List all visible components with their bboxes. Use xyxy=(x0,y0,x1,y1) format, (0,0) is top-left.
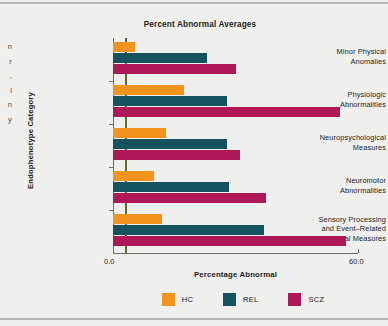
page-rule-top xyxy=(0,2,388,4)
legend-item-rel[interactable]: REL xyxy=(223,293,258,306)
page-rule-bottom xyxy=(0,318,388,320)
bar-scz xyxy=(113,236,346,246)
legend-item-scz[interactable]: SCZ xyxy=(288,293,324,306)
x-axis-line xyxy=(113,253,358,254)
x-tick xyxy=(358,249,359,253)
bar-rel xyxy=(113,225,264,235)
plot-area xyxy=(113,38,358,253)
bar-rel xyxy=(113,96,227,106)
legend-swatch-icon xyxy=(288,293,301,306)
bar-scz xyxy=(113,150,240,160)
chart-legend: HCRELSCZ xyxy=(113,289,373,309)
bar-scz xyxy=(113,107,340,117)
bar-hc xyxy=(113,85,184,95)
bar-scz xyxy=(113,193,266,203)
legend-swatch-icon xyxy=(223,293,236,306)
cropped-text-line: n xyxy=(0,98,12,113)
chart-title: Percent Abnormal Averages xyxy=(14,20,386,29)
cropped-text-line: , xyxy=(0,69,12,84)
legend-item-hc[interactable]: HC xyxy=(162,293,193,306)
bar-scz xyxy=(113,64,236,74)
cropped-text-line: r xyxy=(0,55,12,70)
bar-rel xyxy=(113,182,229,192)
bar-hc xyxy=(113,128,166,138)
chart-figure: Percent Abnormal Averages Endophenotype … xyxy=(14,8,386,316)
x-tick-label: 0.0 xyxy=(104,257,115,266)
x-axis-title: Percentage Abnormal xyxy=(113,270,358,279)
bar-hc xyxy=(113,171,154,181)
bar-rel xyxy=(113,139,227,149)
bar-rel xyxy=(113,53,207,63)
bar-hc xyxy=(113,214,162,224)
y-axis-title: Endophenotype Category xyxy=(26,81,35,201)
cropped-text-line: l xyxy=(0,84,12,99)
cropped-body-text: nr,lny xyxy=(0,40,12,127)
cropped-text-line: y xyxy=(0,113,12,128)
bar-hc xyxy=(113,42,135,52)
legend-swatch-icon xyxy=(162,293,175,306)
figure-page: nr,lny Percent Abnormal Averages Endophe… xyxy=(0,0,388,326)
x-tick-label: 60.0 xyxy=(349,257,364,266)
cropped-text-line: n xyxy=(0,40,12,55)
legend-label: HC xyxy=(182,295,193,304)
legend-label: REL xyxy=(243,295,258,304)
legend-label: SCZ xyxy=(308,295,324,304)
x-tick xyxy=(113,249,114,253)
